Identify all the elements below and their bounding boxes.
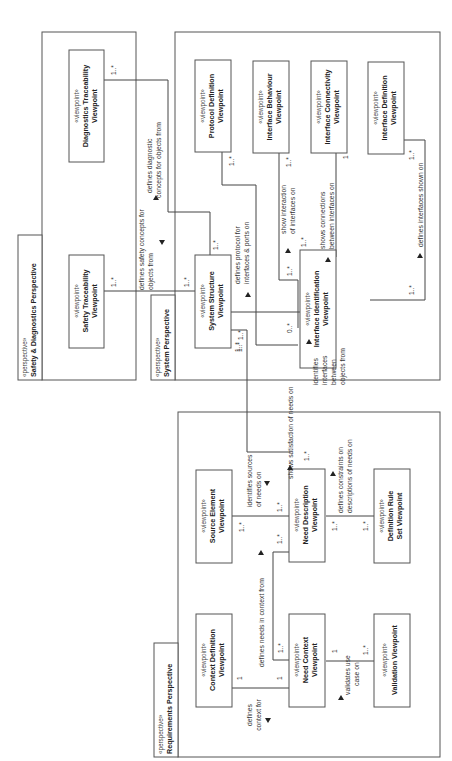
svg-text:Validation Viewpoint: Validation Viewpoint [390,625,399,695]
svg-text:1..*: 1..* [285,157,292,167]
svg-text:«viewpoint»: «viewpoint» [73,284,81,318]
svg-text:of interfaces on: of interfaces on [289,187,296,234]
svg-text:1..*: 1..* [286,266,293,276]
svg-text:Viewpoint: Viewpoint [389,90,398,124]
perspective-title: Requirements Perspective [165,664,174,754]
svg-text:System Structure: System Structure [207,271,216,331]
svg-text:identifies sources: identifies sources [246,454,253,507]
svg-text:of needs on: of needs on [255,471,262,507]
svg-text:«viewpoint»: «viewpoint» [293,643,301,677]
svg-text:1..*: 1..* [110,277,117,287]
direction-arrow-icon [159,240,165,245]
svg-text:1..*: 1..* [300,237,307,247]
svg-text:1: 1 [342,155,349,159]
svg-text:«viewpoint»: «viewpoint» [304,292,312,326]
svg-text:Diagnostics Traceability: Diagnostics Traceability [81,65,90,147]
svg-text:«viewpoint»: «viewpoint» [293,498,301,532]
svg-text:between: between [330,359,337,385]
svg-text:defines needs in context from: defines needs in context from [258,578,265,667]
svg-text:Viewpoint: Viewpoint [332,89,341,123]
svg-text:Viewpoint: Viewpoint [310,497,319,531]
viewpoint-source-element[interactable]: «viewpoint» Source Element Viewpoint [196,470,232,563]
viewpoint-interface-definition[interactable]: «viewpoint» Interface Definition Viewpoi… [368,62,404,154]
svg-text:1..*: 1..* [362,521,369,531]
svg-text:defines diagnostic: defines diagnostic [146,138,154,193]
svg-text:1..*: 1..* [408,150,415,160]
svg-text:1: 1 [331,649,338,653]
viewpoint-need-context[interactable]: «viewpoint» Need Context Viewpoint [289,614,325,707]
svg-text:Need Description: Need Description [301,485,310,544]
viewpoint-context-definition[interactable]: «viewpoint» Context Definition Viewpoint [196,614,232,707]
svg-text:Viewpoint: Viewpoint [217,642,226,676]
svg-text:interfaces & ports on: interfaces & ports on [243,221,251,284]
svg-text:between interfaces on: between interfaces on [328,182,335,249]
svg-text:«viewpoint»: «viewpoint» [199,284,207,318]
svg-text:«viewpoint»: «viewpoint» [200,643,208,677]
svg-text:Need Context: Need Context [301,636,310,683]
svg-text:show interaction: show interaction [280,185,287,234]
svg-text:shows satisfaction of needs on: shows satisfaction of needs on [287,386,294,479]
svg-text:«viewpoint»: «viewpoint» [378,499,386,533]
viewpoint-diagnostics-traceability[interactable]: «viewpoint» Diagnostics Traceability Vie… [69,50,104,162]
svg-text:Viewpoint: Viewpoint [217,498,226,532]
svg-text:concepts for objects from: concepts for objects from [155,122,163,198]
viewpoint-interface-connectivity[interactable]: «viewpoint» Interface Connectivity Viewp… [311,61,347,153]
viewpoint-definition-rule-set[interactable]: «viewpoint» Definition Rule Set Viewpoin… [374,469,410,563]
svg-text:Viewpoint: Viewpoint [321,291,330,325]
svg-text:interfaces: interfaces [321,355,328,385]
viewpoint-need-description[interactable]: «viewpoint» Need Description Viewpoint [289,469,325,562]
svg-text:1: 1 [236,676,243,680]
svg-text:1..*: 1..* [362,645,369,655]
svg-text:1..*: 1..* [276,502,283,512]
svg-text:defines protocol for: defines protocol for [234,225,242,284]
svg-text:Viewpoint: Viewpoint [274,89,283,123]
svg-text:«viewpoint»: «viewpoint» [200,499,208,533]
perspective-title: Safety & Diagnostics Perspective [29,263,38,377]
viewpoint-interface-identification[interactable]: «viewpoint» Interface Identification Vie… [300,250,336,368]
svg-text:case on: case on [353,662,360,686]
svg-text:«viewpoint»: «viewpoint» [257,90,265,124]
svg-text:«viewpoint»: «viewpoint» [199,89,207,123]
viewpoint-safety-traceability[interactable]: «viewpoint» Safety Traceability Viewpoin… [69,255,104,348]
viewpoint-diagram: «perspective» Safety & Diagnostics Persp… [0,0,452,761]
svg-text:defines: defines [246,703,253,726]
perspective-title: System Perspective [162,309,171,377]
svg-text:1..*: 1..* [237,330,244,340]
svg-text:context for: context for [255,698,262,730]
svg-text:descriptions of needs on: descriptions of needs on [346,439,354,513]
viewpoint-system-structure[interactable]: «viewpoint» System Structure Viewpoint [195,255,231,348]
svg-text:validates use: validates use [344,655,351,695]
svg-text:Context Definition: Context Definition [208,629,217,691]
svg-text:«viewpoint»: «viewpoint» [73,89,81,123]
viewpoint-protocol-definition[interactable]: «viewpoint» Protocol Definition Viewpoin… [195,60,231,152]
svg-text:objects from: objects from [147,253,155,290]
svg-text:0..*: 0..* [286,323,293,333]
svg-text:1..*: 1..* [276,534,283,544]
perspective-stereotype: «perspective» [21,337,29,377]
svg-text:1..*: 1..* [183,277,190,287]
svg-text:identifies: identifies [312,358,319,385]
svg-text:Definition Rule: Definition Rule [386,491,395,542]
viewpoint-interface-behaviour[interactable]: «viewpoint» Interface Behaviour Viewpoin… [253,61,289,153]
svg-text:1..*: 1..* [303,451,310,461]
svg-text:«viewpoint»: «viewpoint» [372,91,380,125]
svg-text:Set Viewpoint: Set Viewpoint [395,492,404,540]
svg-text:1: 1 [276,676,283,680]
svg-text:1..*: 1..* [331,521,338,531]
svg-text:Interface Connectivity: Interface Connectivity [323,69,332,144]
svg-text:defines safety concepts for: defines safety concepts for [138,208,146,290]
svg-text:1..*: 1..* [408,285,415,295]
svg-text:1..*: 1..* [228,156,235,166]
svg-text:Interface Identification: Interface Identification [312,271,321,348]
perspective-stereotype: «perspective» [157,714,165,754]
perspective-stereotype: «perspective» [154,337,162,377]
svg-text:1..*: 1..* [238,522,245,532]
svg-text:objects from: objects from [339,348,347,385]
svg-text:Safety Traceability: Safety Traceability [81,269,90,332]
svg-text:Viewpoint: Viewpoint [310,642,319,676]
svg-text:shows connections: shows connections [319,191,326,249]
svg-text:Source Element: Source Element [208,488,217,543]
svg-text:1..*: 1..* [236,342,243,352]
svg-text:defines constraints on: defines constraints on [337,447,344,513]
viewpoint-validation[interactable]: «viewpoint» Validation Viewpoint [374,614,410,707]
